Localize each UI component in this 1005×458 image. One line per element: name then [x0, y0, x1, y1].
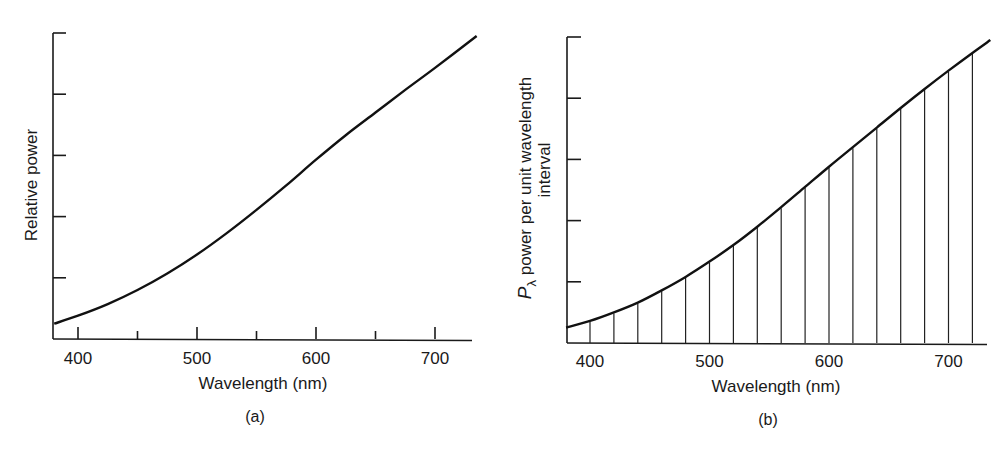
x-tick-label: 600: [815, 352, 843, 371]
chart-b-ylabel-line2: interval: [535, 143, 554, 198]
x-axis-line: [53, 339, 472, 341]
figure: 400500600700 Wavelength (nm) Relative po…: [0, 0, 1005, 458]
chart-b-ylabel-line1: power per unit wavelength: [516, 77, 535, 280]
chart-a-axes: [53, 33, 472, 341]
x-tick-label: 400: [576, 352, 604, 371]
chart-a-curve: [54, 36, 476, 324]
chart-a-panel-label: (a): [245, 408, 265, 425]
x-axis-line: [567, 343, 987, 345]
chart-b-x-axis-title: Wavelength (nm): [712, 377, 841, 396]
x-tick-label: 600: [302, 349, 330, 368]
chart-b-curve: [566, 40, 990, 328]
x-tick-label: 500: [695, 352, 723, 371]
chart-a-y-axis-title: Relative power: [22, 128, 41, 241]
chart-b-panel-label: (b): [758, 411, 778, 428]
chart-b-ylabel-symbol: P: [514, 286, 535, 299]
x-tick-label: 700: [421, 349, 449, 368]
x-tick-label: 500: [183, 349, 211, 368]
x-tick-label: 400: [64, 349, 92, 368]
x-tick-label: 700: [934, 352, 962, 371]
chart-b-x-tick-labels: 400500600700: [576, 352, 963, 371]
chart-a-x-axis-title: Wavelength (nm): [199, 374, 328, 393]
chart-a-x-tick-labels: 400500600700: [64, 349, 449, 368]
chart-b: 400500600700 Wavelength (nm) Pλ power pe…: [514, 37, 990, 428]
chart-a: 400500600700 Wavelength (nm) Relative po…: [22, 33, 477, 425]
chart-b-y-axis-title: Pλ power per unit wavelength interval: [514, 77, 554, 299]
